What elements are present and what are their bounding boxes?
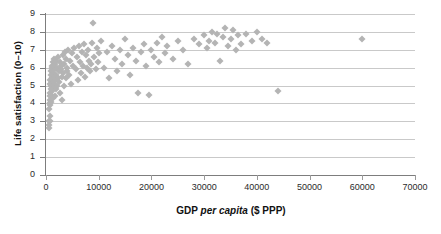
- y-tick-label: 6: [5, 63, 35, 72]
- y-tick-label: 7: [5, 45, 35, 54]
- data-point: [135, 89, 142, 96]
- gridline: [46, 50, 415, 51]
- data-point: [180, 46, 187, 53]
- data-point: [274, 87, 281, 94]
- data-point: [122, 35, 129, 42]
- data-point: [100, 64, 107, 71]
- x-tick: [204, 175, 205, 180]
- y-tick-label: 3: [5, 116, 35, 125]
- gridline: [46, 157, 415, 158]
- y-tick-label: 2: [5, 134, 35, 143]
- x-axis-title-italic: per capita: [201, 205, 248, 216]
- gridline: [46, 121, 415, 122]
- gridline: [46, 139, 415, 140]
- y-tick-label: 8: [5, 27, 35, 36]
- data-point: [161, 50, 168, 57]
- scatter-chart: Life satisfaction (0–10) GDP per capita …: [0, 0, 441, 234]
- data-point: [153, 39, 160, 46]
- data-point: [185, 61, 192, 68]
- data-point: [156, 59, 163, 66]
- plot-area: [46, 14, 415, 175]
- y-tick-label: 9: [5, 9, 35, 18]
- data-point: [114, 68, 121, 75]
- data-point: [90, 19, 97, 26]
- data-point: [98, 37, 105, 44]
- x-tick-label: 0: [16, 183, 76, 192]
- x-tick: [362, 175, 363, 180]
- x-tick-label: 40000: [227, 183, 287, 192]
- x-tick-label: 30000: [174, 183, 234, 192]
- data-point: [140, 41, 147, 48]
- data-point: [264, 39, 271, 46]
- y-tick-label: 4: [5, 98, 35, 107]
- data-point: [111, 55, 118, 62]
- data-point: [158, 34, 165, 41]
- data-point: [253, 28, 260, 35]
- data-point: [216, 57, 223, 64]
- data-point: [145, 91, 152, 98]
- data-point: [92, 66, 99, 73]
- x-axis-line: [45, 175, 416, 176]
- y-tick-label: 5: [5, 81, 35, 90]
- data-point: [169, 55, 176, 62]
- data-point: [148, 46, 155, 53]
- x-axis-title: GDP per capita ($ PPP): [46, 205, 416, 216]
- data-point: [219, 34, 226, 41]
- gridline: [46, 103, 415, 104]
- data-point: [74, 77, 81, 84]
- x-tick: [99, 175, 100, 180]
- data-point: [59, 96, 66, 103]
- data-point: [119, 61, 126, 68]
- data-point: [106, 75, 113, 82]
- data-point: [222, 25, 229, 32]
- x-tick-label: 10000: [69, 183, 129, 192]
- x-tick: [46, 175, 47, 180]
- data-point: [57, 89, 64, 96]
- data-point: [224, 43, 231, 50]
- data-point: [46, 125, 53, 132]
- y-axis-title: Life satisfaction (0–10): [12, 14, 23, 174]
- x-tick-label: 20000: [121, 183, 181, 192]
- data-point: [81, 73, 88, 80]
- x-tick-label: 60000: [332, 183, 392, 192]
- data-point: [108, 43, 115, 50]
- data-point: [124, 52, 131, 59]
- data-point: [237, 41, 244, 48]
- x-tick: [310, 175, 311, 180]
- data-point: [235, 32, 242, 39]
- x-tick-label: 70000: [385, 183, 441, 192]
- y-tick-label: 0: [5, 170, 35, 179]
- data-point: [132, 57, 139, 64]
- x-tick: [257, 175, 258, 180]
- y-tick-label: 1: [5, 152, 35, 161]
- data-point: [248, 37, 255, 44]
- x-axis-title-pre: GDP: [176, 205, 200, 216]
- x-tick-label: 50000: [280, 183, 340, 192]
- x-tick: [151, 175, 152, 180]
- x-axis-title-post: ($ PPP): [248, 205, 286, 216]
- data-point: [174, 37, 181, 44]
- data-point: [127, 71, 134, 78]
- data-point: [232, 46, 239, 53]
- data-point: [195, 41, 202, 48]
- data-point: [359, 35, 366, 42]
- gridline: [46, 14, 415, 15]
- data-point: [116, 46, 123, 53]
- x-tick: [415, 175, 416, 180]
- gridline: [46, 86, 415, 87]
